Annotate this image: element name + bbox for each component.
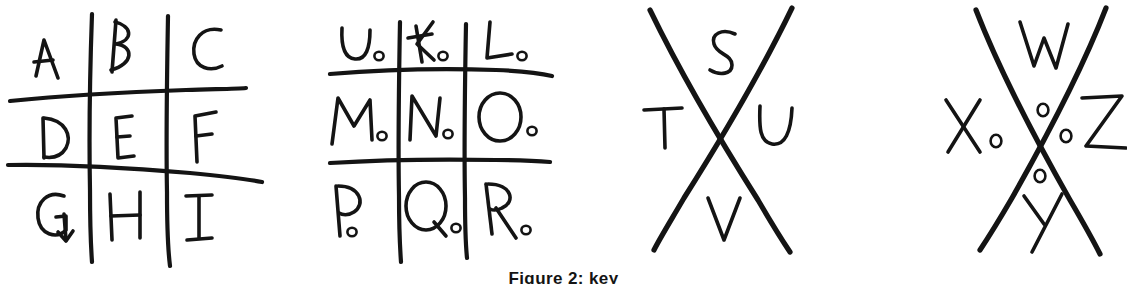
grid-1-hline-bottom xyxy=(8,165,262,182)
cipher-cell-P xyxy=(336,186,360,236)
cipher-cell-L xyxy=(487,22,527,60)
grid-2-vline-left xyxy=(399,22,401,262)
cipher-cell-O xyxy=(479,93,537,141)
cipher-cell-I xyxy=(186,195,212,240)
grid-1-hline-top xyxy=(10,88,246,101)
dot-Z xyxy=(1061,130,1072,142)
x-1-drawing xyxy=(610,0,840,284)
dot-O xyxy=(527,127,536,135)
glyph-group-x-2: X shape with dots xyxy=(900,0,1127,284)
grid-2-vline-right xyxy=(465,24,467,258)
letter-F-midbar xyxy=(196,134,212,136)
letter-S-glyph xyxy=(710,32,735,74)
cipher-cell-Q xyxy=(406,182,461,236)
letter-H-bar xyxy=(111,215,140,216)
grid-1-drawing xyxy=(0,0,300,284)
letter-Z-glyph xyxy=(1082,96,1126,148)
glyph-group-x-1: X shape without dots xyxy=(610,0,840,284)
letter-O-glyph xyxy=(479,93,521,141)
cipher-cell-M xyxy=(332,98,387,144)
grid-1-vline-left xyxy=(90,14,92,262)
letter-G-glyph xyxy=(38,194,66,234)
grid-2-drawing xyxy=(300,0,600,284)
cipher-cell-F xyxy=(195,112,216,162)
cipher-cell-N xyxy=(410,96,453,140)
cipher-cell-U xyxy=(760,106,792,144)
cipher-cell-S xyxy=(710,32,735,74)
dot-L xyxy=(517,52,526,60)
grid-2-hline-bottom xyxy=(330,160,550,163)
letter-N-glyph xyxy=(410,96,440,140)
letter-R-bowl xyxy=(488,184,510,210)
dot-Y xyxy=(1035,170,1046,182)
letter-R-leg xyxy=(496,208,516,238)
dot-N xyxy=(443,130,452,138)
letter-V-glyph xyxy=(708,198,740,240)
cipher-cell-G xyxy=(38,194,73,241)
letter-U-glyph xyxy=(760,106,792,144)
letter-P-stem xyxy=(336,186,340,236)
dot-J xyxy=(374,52,383,60)
cipher-cell-R xyxy=(486,184,531,238)
letter-J-glyph xyxy=(342,28,370,59)
letter-I-bottom xyxy=(187,238,212,240)
letter-Y-right-arm-and-tail xyxy=(1032,194,1062,252)
dot-Q xyxy=(451,224,460,232)
cipher-cell-B xyxy=(111,20,129,72)
cipher-cell-E xyxy=(116,116,134,158)
letter-B-stem xyxy=(112,20,116,72)
cipher-cell-V xyxy=(708,198,740,240)
cipher-cell-H xyxy=(110,192,140,240)
figure-caption: Figure 2: key xyxy=(0,270,1127,284)
letter-E-midbar xyxy=(117,136,130,137)
letter-Q-glyph xyxy=(406,182,446,230)
cipher-cell-X xyxy=(946,100,1001,152)
dot-M xyxy=(377,132,386,140)
cipher-cell-Z xyxy=(1061,96,1126,148)
cipher-cell-D xyxy=(43,118,68,158)
letter-A-bar xyxy=(34,60,53,62)
cipher-cell-C xyxy=(194,29,222,68)
letter-Y-left-arm xyxy=(1024,196,1044,224)
letter-W-glyph xyxy=(1020,22,1068,68)
cipher-cell-T xyxy=(644,108,682,148)
glyph-group-grid-1: tic-tac-toe grid without dots xyxy=(0,0,300,284)
letter-G-tail xyxy=(64,214,66,240)
grid-1-vline-right xyxy=(167,16,170,266)
x-1-stroke-down-left xyxy=(654,8,792,250)
letter-C-glyph xyxy=(194,29,222,68)
dot-W xyxy=(1038,104,1049,116)
letter-D-bowl xyxy=(44,118,68,157)
dot-R xyxy=(521,226,530,234)
dot-X xyxy=(991,135,1002,147)
glyph-group-grid-2: tic-tac-toe grid with dots xyxy=(300,0,600,284)
x-2-drawing xyxy=(900,0,1127,284)
letter-P-bowl xyxy=(338,186,360,215)
letter-M-glyph xyxy=(332,98,372,144)
letter-T-stem xyxy=(664,109,665,148)
letter-L-glyph xyxy=(487,22,512,58)
cipher-cell-K xyxy=(408,22,448,62)
cipher-cell-J xyxy=(342,28,384,60)
dot-K xyxy=(438,52,447,60)
grid-2-hline-top xyxy=(330,69,552,76)
cipher-cell-A xyxy=(34,40,58,78)
dot-P xyxy=(347,228,356,236)
letter-D-stem xyxy=(43,118,44,158)
cipher-cell-Y xyxy=(1024,170,1062,252)
cipher-key-figure: tic-tac-toe grid without dots xyxy=(0,0,1127,284)
